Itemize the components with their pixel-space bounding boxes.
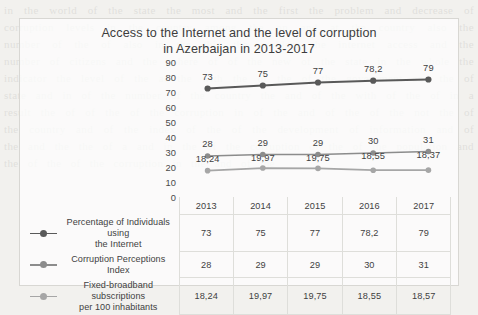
legend-item-1[interactable]: Corruption Perceptions Index xyxy=(29,252,179,278)
table-cell: 30 xyxy=(342,252,396,278)
table-cell: 19,97 xyxy=(233,278,287,315)
legend-label: Percentage of Individuals usingthe Inter… xyxy=(60,217,177,250)
table-header-row: 20132014201520162017 xyxy=(29,197,451,215)
legend-marker-icon xyxy=(30,260,57,269)
y-axis-tick: 30 xyxy=(150,148,176,158)
table-cell: 79 xyxy=(397,215,451,252)
table-cell: 18,55 xyxy=(342,278,396,315)
data-label: 79 xyxy=(423,63,434,73)
table-cell: 18,24 xyxy=(179,278,233,315)
legend-item-2[interactable]: Fixed-broadband subscriptionsper 100 inh… xyxy=(29,278,179,315)
table-column-header: 2017 xyxy=(397,197,451,215)
table-column-header: 2016 xyxy=(342,197,396,215)
table-cell: 78,2 xyxy=(342,215,396,252)
legend-label-line-2: the Internet xyxy=(60,239,177,250)
data-label: 73 xyxy=(202,72,213,82)
table-column-header: 2014 xyxy=(233,197,287,215)
data-point-marker xyxy=(315,79,321,85)
plot-canvas: 73757778,279282929303118,2419,9719,7518,… xyxy=(180,63,456,198)
table-row: Percentage of Individuals usingthe Inter… xyxy=(29,215,451,252)
table-cell: 19,75 xyxy=(288,278,342,315)
legend-label-line-1: Corruption Perceptions Index xyxy=(60,254,177,276)
table-corner-cell xyxy=(29,197,179,215)
legend-dot-icon xyxy=(40,293,47,300)
table-row: Corruption Perceptions Index2829293031 xyxy=(29,252,451,278)
y-axis-tick: 40 xyxy=(150,133,176,143)
chart-title-line-1: Access to the Internet and the level of … xyxy=(20,26,458,42)
data-point-marker xyxy=(370,167,376,173)
table-cell: 28 xyxy=(179,252,233,278)
y-axis-tick: 60 xyxy=(150,103,176,113)
legend-dot-icon xyxy=(40,261,47,268)
table-cell: 75 xyxy=(233,215,287,252)
data-label: 28 xyxy=(202,139,213,149)
table-cell: 18,57 xyxy=(397,278,451,315)
data-point-marker xyxy=(315,166,321,172)
data-label: 29 xyxy=(313,138,324,148)
legend-marker-icon xyxy=(30,229,57,238)
chart-card: Access to the Internet and the level of … xyxy=(19,18,459,286)
legend-entry: Percentage of Individuals usingthe Inter… xyxy=(29,215,179,252)
legend-label-line-1: Fixed-broadband subscriptions xyxy=(60,280,177,302)
y-axis-tick: 80 xyxy=(150,73,176,83)
table-cell: 77 xyxy=(288,215,342,252)
data-label: 19,97 xyxy=(251,153,275,163)
chart-title-line-2: in Azerbaijan in 2013-2017 xyxy=(20,42,458,58)
data-point-marker xyxy=(260,165,266,171)
legend-entry: Corruption Perceptions Index xyxy=(29,252,179,278)
y-axis-tick: 70 xyxy=(150,88,176,98)
data-label: 29 xyxy=(258,138,269,148)
data-point-marker xyxy=(205,85,211,91)
data-label: 18,37 xyxy=(417,150,441,160)
data-label: 77 xyxy=(313,66,324,76)
data-label: 75 xyxy=(258,69,269,79)
plot-area: 9080706050403020100 73757778,27928292930… xyxy=(20,63,460,198)
table-row: Fixed-broadband subscriptionsper 100 inh… xyxy=(29,278,451,315)
legend-label-line-1: Percentage of Individuals using xyxy=(60,217,177,239)
data-label: 18,24 xyxy=(196,154,220,164)
data-point-marker xyxy=(205,168,211,174)
y-axis-tick: 10 xyxy=(150,178,176,188)
data-table: 20132014201520162017Percentage of Indivi… xyxy=(29,197,451,315)
data-label: 19,75 xyxy=(306,153,330,163)
y-axis-tick: 20 xyxy=(150,163,176,173)
table-cell: 29 xyxy=(288,252,342,278)
table-cell: 73 xyxy=(179,215,233,252)
data-point-marker xyxy=(425,76,431,82)
table-cell: 29 xyxy=(233,252,287,278)
legend-label: Corruption Perceptions Index xyxy=(60,254,177,276)
data-label: 78,2 xyxy=(364,64,383,74)
table-column-header: 2013 xyxy=(179,197,233,215)
y-axis-tick: 50 xyxy=(150,118,176,128)
legend-label: Fixed-broadband subscriptionsper 100 inh… xyxy=(60,280,177,313)
legend-item-0[interactable]: Percentage of Individuals usingthe Inter… xyxy=(29,215,179,252)
data-label: 31 xyxy=(423,135,434,145)
data-label: 18,55 xyxy=(361,151,385,161)
legend-dot-icon xyxy=(40,230,47,237)
legend-marker-icon xyxy=(30,292,57,301)
legend-label-line-2: per 100 inhabitants xyxy=(60,302,177,313)
series-lines xyxy=(180,63,456,198)
table-cell: 31 xyxy=(397,252,451,278)
y-axis-tick: 90 xyxy=(150,58,176,68)
legend-entry: Fixed-broadband subscriptionsper 100 inh… xyxy=(29,278,179,315)
y-axis: 9080706050403020100 xyxy=(150,63,176,198)
data-point-marker xyxy=(426,167,432,173)
table-column-header: 2015 xyxy=(288,197,342,215)
data-label: 30 xyxy=(368,136,379,146)
data-point-marker xyxy=(260,82,266,88)
data-point-marker xyxy=(370,78,376,84)
chart-title: Access to the Internet and the level of … xyxy=(20,19,458,57)
